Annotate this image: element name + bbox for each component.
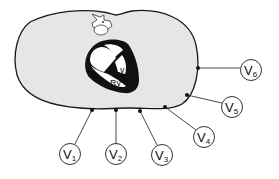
electrode-dot-v1 (90, 108, 94, 112)
electrode-dot-v6 (196, 66, 200, 70)
lead-v6: V6 (196, 60, 262, 81)
chest-cross-section-diagram: Lv Rv V1 V2 V3 V4 V5 V6 (0, 0, 279, 179)
lead-v3: V3 (138, 109, 173, 166)
right-ventricle-label: Rv (110, 78, 121, 88)
lead-v4: V4 (163, 105, 215, 148)
lead-v2: V2 (106, 108, 127, 165)
electrode-dot-v5 (185, 93, 189, 97)
electrode-dot-v4 (163, 105, 167, 109)
electrode-dot-v3 (138, 109, 142, 113)
lead-v1: V1 (60, 108, 95, 165)
electrode-dot-v2 (114, 108, 118, 112)
left-ventricle-label: Lv (115, 65, 125, 75)
lead-v5: V5 (185, 93, 243, 118)
